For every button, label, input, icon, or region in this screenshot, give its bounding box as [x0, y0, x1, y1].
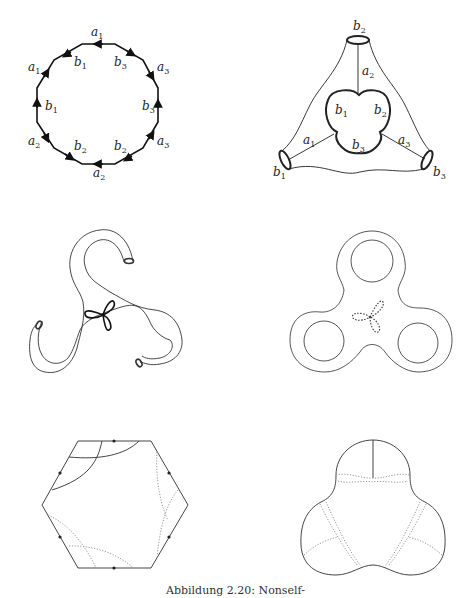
- dodecagon-labels: a1b1b3a3a1b1b3a2a3b2b2a2: [28, 25, 169, 182]
- hole-top: [351, 240, 393, 282]
- edge-label: b2: [353, 19, 366, 35]
- edge-label: b2: [374, 103, 387, 119]
- boundary-b2: [347, 36, 369, 44]
- edge-label: a1: [28, 60, 40, 76]
- figure-canvas: a1b1b3a3a1b1b3a2a3b2b2a2 b2a2b1b2a1b3a3b…: [0, 0, 471, 598]
- edge-label: a1: [91, 25, 103, 41]
- edge-label: b3: [352, 138, 365, 154]
- edge-label: a1: [303, 133, 315, 149]
- hole-left: [304, 321, 344, 361]
- hexagon-panel: [42, 439, 188, 569]
- trefoil-region-panel: [301, 440, 445, 575]
- dodecagon-panel: [37, 44, 158, 164]
- edge-label: b1: [45, 99, 58, 115]
- edge-label: b1: [335, 103, 348, 119]
- edge-label: a2: [28, 134, 40, 150]
- edge-label: a3: [157, 60, 169, 76]
- edge-label: b2: [74, 139, 87, 155]
- edge-label: a3: [157, 134, 169, 150]
- edge-label: b1: [74, 55, 87, 71]
- edge-label: b3: [114, 55, 127, 71]
- tube-triskelion-panel: [30, 230, 183, 373]
- edge-label: a2: [362, 64, 374, 80]
- pants-surface-panel: [277, 36, 435, 173]
- edge-label: b3: [142, 99, 155, 115]
- edge-label: b3: [433, 165, 446, 181]
- fidget-spinner-panel: [290, 231, 452, 372]
- figure-caption: Abbildung 2.20: Nonself-: [0, 584, 471, 597]
- edge-label: b2: [114, 139, 127, 155]
- edge-label: a3: [398, 133, 410, 149]
- hole-right: [398, 323, 438, 363]
- edge-label: a2: [93, 166, 105, 182]
